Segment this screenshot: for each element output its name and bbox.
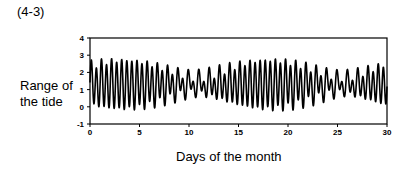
y-tick-label: 0 [80,103,85,112]
tide-series-line [90,59,387,111]
x-tick-label: 15 [234,128,243,137]
y-tick-label: 1 [80,86,85,95]
x-tick-label: 10 [185,128,194,137]
x-tick-label: 0 [88,128,93,137]
x-tick-label: 5 [137,128,142,137]
y-tick-label: -1 [77,120,85,129]
x-tick-label: 20 [284,128,293,137]
y-axis-ticks: -101234 [77,34,90,129]
y-tick-label: 4 [80,34,85,43]
x-tick-label: 30 [383,128,392,137]
y-tick-label: 2 [80,68,85,77]
tide-chart: -101234 051015202530 [0,0,412,171]
x-tick-label: 25 [333,128,342,137]
x-axis-ticks: 051015202530 [88,124,392,137]
y-tick-label: 3 [80,51,85,60]
